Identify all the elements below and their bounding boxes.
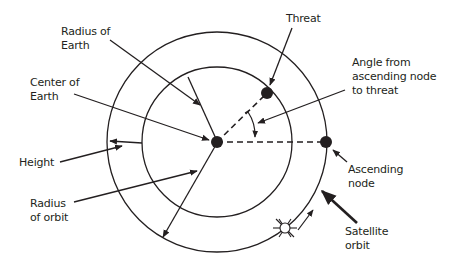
label-radius-of-orbit: Radius of orbit: [30, 197, 68, 225]
threat-line-dashed: [217, 93, 267, 142]
label-height: Height: [19, 156, 54, 170]
ascending-node-leader: [333, 150, 347, 162]
radius-of-orbit-leader: [74, 171, 197, 202]
threat-dot: [261, 87, 273, 99]
label-threat: Threat: [286, 12, 321, 26]
height-line: [110, 141, 142, 143]
center-of-earth-leader: [74, 94, 209, 140]
orbit-radius-line: [163, 143, 217, 237]
threat-leader: [270, 28, 292, 85]
label-angle-from-ascending-node: Angle from ascending node to threat: [352, 56, 436, 98]
label-ascending-node: Ascending node: [348, 163, 403, 191]
center-of-earth-dot: [211, 136, 223, 148]
earth-radius-line: [188, 77, 217, 141]
satellite-orbit-leader: [322, 191, 357, 223]
label-radius-of-earth: Radius of Earth: [61, 25, 110, 53]
height-leader: [60, 146, 122, 162]
label-satellite-orbit: Satellite orbit: [345, 225, 388, 253]
label-center-of-earth: Center of Earth: [30, 76, 79, 104]
radius-of-earth-leader: [110, 40, 200, 105]
angle-arc: [248, 112, 255, 137]
ascending-node-dot: [320, 136, 332, 148]
